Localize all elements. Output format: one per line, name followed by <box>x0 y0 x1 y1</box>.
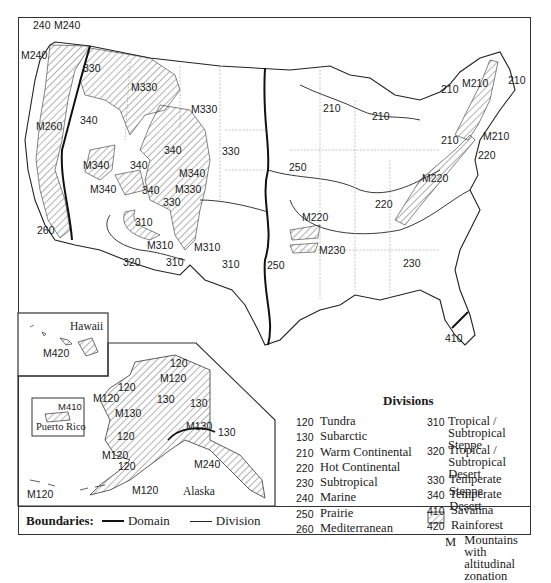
alaska-label-ak-130-c: 130 <box>218 427 236 438</box>
puerto-rico-m410-label: M410 <box>58 401 82 412</box>
region-label-220: 220 <box>375 199 393 210</box>
region-label-m220-e: M220 <box>422 173 448 184</box>
region-label-210-me: 210 <box>508 75 526 86</box>
region-label-m330-n: M330 <box>131 82 157 93</box>
alaska-label-ak-130-b: 130 <box>190 398 208 409</box>
region-label-m340-sw: M340 <box>90 184 116 195</box>
hawaii-label: Hawaii <box>70 320 103 332</box>
alaska-label-ak-130-a: 130 <box>157 394 175 405</box>
legend-item-310: 310Tropical /Subtropical Steppe <box>427 415 531 444</box>
legend-name: Subarctic <box>320 430 367 442</box>
mountain-ouachita <box>290 243 318 253</box>
region-label-m230: M230 <box>319 245 345 256</box>
region-label-240-nw: 240 <box>33 20 51 31</box>
legend-name: Marine <box>320 491 356 503</box>
legend-item-340: 340Temperate Desert <box>427 488 531 503</box>
legend-code: 330 <box>427 473 449 486</box>
region-label-230: 230 <box>403 258 421 269</box>
legend-code: 130 <box>296 430 320 443</box>
legend-item-320: 320Tropical /Subtropical Desert <box>427 444 531 473</box>
region-label-m330-s: M330 <box>175 184 201 195</box>
region-label-m210-s: M210 <box>483 131 509 142</box>
region-label-340-s: 340 <box>130 160 148 171</box>
hawaii-m420-label: M420 <box>43 348 69 359</box>
alaska-label-ak-m120-top: M120 <box>160 373 186 384</box>
region-label-340-c: 340 <box>164 145 182 156</box>
region-label-210-ny: 210 <box>441 135 459 146</box>
region-label-310-e: 310 <box>222 259 240 270</box>
region-label-320: 320 <box>123 257 141 268</box>
alaska-label-ak-120-top: 120 <box>170 358 188 369</box>
region-label-m240-top: M240 <box>54 20 80 31</box>
region-label-260: 260 <box>37 225 55 236</box>
alaska-label-ak-m120-s: M120 <box>132 485 158 496</box>
domain-line-icon <box>102 520 124 522</box>
legend-name: Warm Continental <box>320 446 412 458</box>
region-label-250-s: 250 <box>267 260 285 271</box>
region-label-220-ne: 220 <box>478 150 496 161</box>
legend-code: 230 <box>296 476 320 489</box>
alaska-label-ak-m120-aleut: M120 <box>27 489 53 500</box>
alaska-label: Alaska <box>183 485 215 497</box>
alaska-label-ak-120-w: 120 <box>117 431 135 442</box>
region-label-m340-e: M340 <box>179 168 205 179</box>
region-label-m220-w: M220 <box>302 212 328 223</box>
legend-name: Tundra <box>320 415 356 427</box>
alaska-label-ak-120-sw: 120 <box>118 461 136 472</box>
legend-code: 340 <box>427 488 449 501</box>
division-line-icon <box>190 521 212 522</box>
region-label-m310-e: M310 <box>194 242 220 253</box>
region-label-210-mn: 210 <box>323 103 341 114</box>
legend-item-230: 230Subtropical <box>296 476 412 491</box>
region-label-330-s: 330 <box>163 197 181 208</box>
region-label-330-c: 330 <box>222 146 240 157</box>
region-label-m240-left: M240 <box>21 50 47 61</box>
region-label-310-w: 310 <box>135 217 153 228</box>
alaska-label-ak-m120-nw: M120 <box>93 393 119 404</box>
legend-code: 310 <box>427 415 448 428</box>
region-label-210-ne: 210 <box>441 84 459 95</box>
legend-name: Mountains withaltitudinal zonation <box>464 534 531 582</box>
division-label: Division <box>216 513 261 529</box>
legend-name: Subtropical <box>320 476 378 488</box>
region-label-m330-ne: M330 <box>191 104 217 115</box>
region-label-410: 410 <box>445 333 463 344</box>
region-label-340-w: 340 <box>80 115 98 126</box>
region-label-m210-n: M210 <box>462 78 488 89</box>
legend-item-210: 210Warm Continental <box>296 446 412 461</box>
alaska-label-ak-m130-a: M130 <box>115 408 141 419</box>
boundaries-title: Boundaries: <box>26 513 94 529</box>
alaska-label-ak-120-nw: 120 <box>118 382 136 393</box>
region-label-250-n: 250 <box>289 162 307 173</box>
legend-title: Divisions <box>383 393 434 409</box>
legend-code: 210 <box>296 446 320 459</box>
legend-code: M <box>427 534 464 550</box>
legend-code: 320 <box>427 444 448 457</box>
region-label-210-mi: 210 <box>372 111 390 122</box>
legend-name: Hot Continental <box>320 461 400 473</box>
region-label-310-s: 310 <box>166 257 184 268</box>
region-label-m260: M260 <box>36 121 62 132</box>
legend-item-M: MMountains withaltitudinal zonation <box>427 534 531 563</box>
legend-item-220: 220Hot Continental <box>296 461 412 476</box>
puerto-rico-label: Puerto Rico <box>36 421 86 432</box>
alaska-label-ak-m240: M240 <box>194 459 220 470</box>
legend-item-120: 120Tundra <box>296 415 412 430</box>
legend-item-240: 240Marine <box>296 491 412 506</box>
boundaries-key: Boundaries: Domain Division <box>18 506 531 535</box>
legend-code: 220 <box>296 461 320 474</box>
legend-code: 120 <box>296 415 320 428</box>
region-label-m340-w: M340 <box>83 160 109 171</box>
region-label-330-nw: 330 <box>83 63 101 74</box>
legend-item-130: 130Subarctic <box>296 430 412 445</box>
alaska-label-ak-m130-b: M130 <box>186 421 212 432</box>
legend-code: 240 <box>296 491 320 504</box>
region-label-m310-w: M310 <box>147 240 173 251</box>
domain-label: Domain <box>128 513 170 529</box>
legend-right-column: 310Tropical /Subtropical Steppe320Tropic… <box>427 415 531 563</box>
region-label-340-se: 340 <box>142 185 160 196</box>
legend-item-330: 330Temperate Steppe <box>427 473 531 488</box>
